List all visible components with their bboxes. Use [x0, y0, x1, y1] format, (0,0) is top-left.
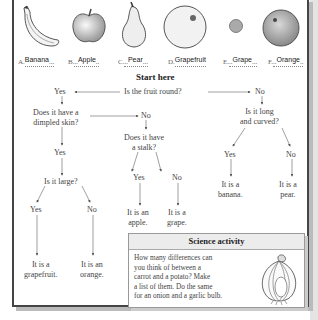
result-grape: It is agrape. [167, 208, 187, 227]
result-orange: It is anorange. [80, 260, 104, 279]
garlic-bulb-icon [257, 253, 301, 305]
answer-no-large: No [87, 205, 97, 215]
answer-yes-dimpled: Yes [54, 148, 66, 158]
answer-yes-stalk: Yes [133, 173, 145, 183]
science-activity-box: Science activity How many differences ca… [128, 233, 305, 308]
question-long-curved: Is it longand curved? [240, 107, 279, 126]
question-round: Is the fruit round? [124, 87, 182, 97]
answer-yes-round: Yes [54, 87, 66, 97]
result-grapefruit: It is agrapefruit. [24, 260, 58, 279]
science-activity-title: Science activity [129, 234, 304, 250]
answer-yes-long: Yes [224, 150, 236, 160]
start-here-heading: Start here [136, 73, 175, 83]
question-stalk: Does it havea stalk? [124, 133, 164, 152]
result-banana: It is abanana. [218, 180, 243, 199]
answer-no-long: No [286, 150, 296, 160]
answer-no-round: No [255, 87, 265, 97]
question-dimpled: Does it have adimpled skin? [33, 108, 79, 127]
science-activity-text: How many differences can you think of be… [134, 253, 254, 301]
question-large: Is it large? [44, 177, 78, 187]
result-apple: It is anapple. [127, 208, 149, 227]
answer-no-dimpled: No [141, 111, 151, 121]
result-pear: It is apear. [279, 180, 297, 199]
answer-yes-large: Yes [30, 205, 42, 215]
answer-no-stalk: No [172, 173, 182, 183]
